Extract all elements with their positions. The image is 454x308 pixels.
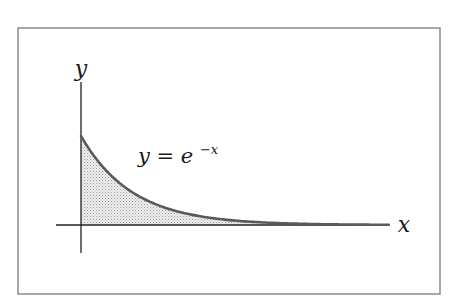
figure: y x y = e −x (0, 0, 454, 308)
y-axis-label: y (74, 56, 88, 81)
curve-equation-label: y = e −x (137, 142, 219, 168)
equation-exponent: −x (200, 142, 219, 157)
shaded-area-under-curve (81, 136, 389, 225)
x-axis-label: x (398, 212, 411, 237)
equation-base: y = e (137, 144, 193, 168)
exponential-decay-diagram: y x y = e −x (0, 0, 454, 308)
